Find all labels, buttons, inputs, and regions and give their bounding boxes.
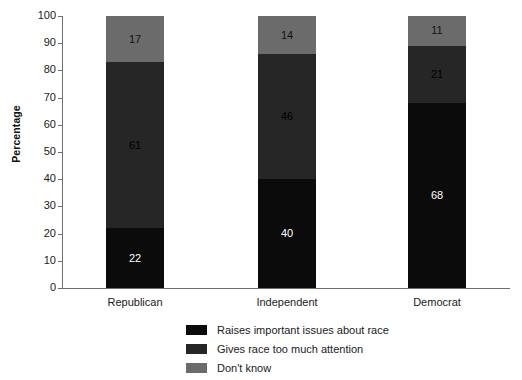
bar-republican: 226117 — [106, 16, 164, 288]
x-axis-label-republican: Republican — [65, 296, 205, 308]
legend-swatch — [186, 325, 207, 335]
y-axis-tick — [58, 179, 63, 180]
y-axis-tick-label: 90 — [20, 37, 56, 48]
bar-segment: 68 — [408, 103, 466, 288]
bar-democrat: 682111 — [408, 16, 466, 288]
y-axis-tick-label: 10 — [20, 255, 56, 266]
bar-segment: 61 — [106, 62, 164, 228]
bar-independent: 404614 — [258, 16, 316, 288]
y-axis-tick — [58, 98, 63, 99]
y-axis-tick-label: 50 — [20, 146, 56, 157]
bar-value-label: 46 — [281, 111, 293, 122]
x-axis-line — [62, 288, 510, 289]
legend-item: Gives race too much attention — [186, 339, 486, 358]
y-axis-tick — [58, 261, 63, 262]
y-axis-tick-label: 20 — [20, 228, 56, 239]
stacked-bar-chart: Percentage 1009080706050403020100 226117… — [0, 0, 522, 380]
y-axis-tick — [58, 206, 63, 207]
bar-segment: 21 — [408, 46, 466, 103]
bar-segment: 40 — [258, 179, 316, 288]
bar-value-label: 14 — [281, 30, 293, 41]
y-axis-tick-label: 100 — [20, 10, 56, 21]
bar-segment: 22 — [106, 228, 164, 288]
y-axis-tick-label: 80 — [20, 64, 56, 75]
bar-segment: 46 — [258, 54, 316, 179]
plot-area: Percentage 1009080706050403020100 226117… — [0, 0, 522, 300]
y-axis-tick — [58, 152, 63, 153]
y-axis-tick — [58, 43, 63, 44]
y-axis-tick-label: 40 — [20, 173, 56, 184]
chart-legend: Raises important issues about raceGives … — [186, 320, 486, 377]
y-axis-tick — [58, 234, 63, 235]
bar-segment: 17 — [106, 16, 164, 62]
legend-item: Don't know — [186, 358, 486, 377]
bar-segment: 11 — [408, 16, 466, 46]
y-axis-tick — [58, 125, 63, 126]
bar-value-label: 61 — [129, 140, 141, 151]
bar-value-label: 11 — [431, 25, 442, 36]
y-axis-tick — [58, 70, 63, 71]
y-axis-tick-label: 0 — [20, 282, 56, 293]
legend-swatch — [186, 363, 207, 373]
legend-swatch — [186, 344, 207, 354]
x-axis-label-democrat: Democrat — [367, 296, 507, 308]
legend-label: Gives race too much attention — [217, 343, 363, 355]
bar-value-label: 21 — [431, 69, 443, 80]
bar-value-label: 22 — [129, 253, 141, 264]
x-axis-label-independent: Independent — [217, 296, 357, 308]
bar-value-label: 40 — [281, 228, 293, 239]
y-axis-tick-label: 30 — [20, 200, 56, 211]
y-axis-tick — [58, 16, 63, 17]
bar-segment: 14 — [258, 16, 316, 54]
bar-value-label: 68 — [431, 190, 443, 201]
legend-label: Raises important issues about race — [217, 324, 389, 336]
bar-value-label: 17 — [129, 34, 141, 45]
y-axis-tick-label: 70 — [20, 92, 56, 103]
legend-label: Don't know — [217, 362, 271, 374]
y-axis-tick — [58, 288, 63, 289]
legend-item: Raises important issues about race — [186, 320, 486, 339]
y-axis-tick-label: 60 — [20, 119, 56, 130]
